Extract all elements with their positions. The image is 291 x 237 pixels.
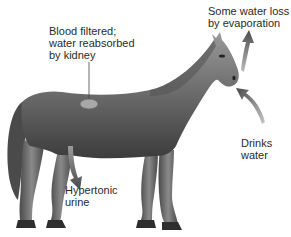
urine-label: Hypertonic urine [65,184,118,208]
evaporation-label: Some water loss by evaporation [208,5,289,29]
horse-water-balance-diagram: Blood filtered; water reabsorbed by kidn… [0,0,291,237]
horse-leg-front-near [159,148,179,224]
kidney-shape [80,99,98,109]
horse-hoof [46,220,66,228]
drinking-label: Drinks water [241,137,272,161]
evaporation-arrow [241,30,254,72]
drinking-arrow [236,88,265,124]
horse-hoof [16,220,36,228]
horse-eye [219,55,225,58]
kidney-label-line-2: water reabsorbed [49,37,135,49]
kidney-label-line-1: Blood filtered; [49,25,135,37]
horse-leg-front-far [140,150,158,222]
horse-hoof [162,222,182,230]
horse-nostril [232,76,235,80]
urine-label-line-2: urine [65,196,118,208]
horse-illustration [0,0,291,237]
drinking-label-line-1: Drinks [241,137,272,149]
drinking-label-line-2: water [241,149,272,161]
kidney-label: Blood filtered; water reabsorbed by kidn… [49,25,135,61]
evaporation-label-line-1: Some water loss [208,5,289,17]
kidney-label-line-3: by kidney [49,49,135,61]
horse-hoof [136,220,156,228]
urine-label-line-1: Hypertonic [65,184,118,196]
evaporation-label-line-2: by evaporation [208,17,289,29]
horse-leg-rear-near [20,140,44,222]
